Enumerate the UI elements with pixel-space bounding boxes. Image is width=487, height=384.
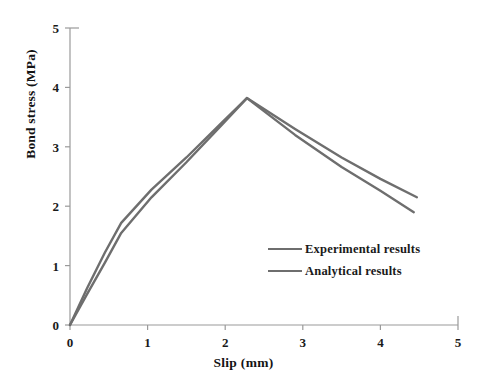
x-tick-label: 4 [368, 336, 392, 349]
x-axis-title: Slip (mm) [0, 355, 487, 371]
legend-line-analytical [268, 270, 302, 272]
plot-canvas [0, 0, 487, 384]
data-series-group [70, 98, 417, 325]
y-axis-ticks [65, 28, 70, 325]
y-tick-label: 3 [39, 141, 59, 154]
y-tick-label: 1 [39, 260, 59, 273]
series-line-experimental-results [70, 98, 417, 325]
legend-label-experimental: Experimental results [305, 242, 420, 257]
y-tick-label: 4 [39, 81, 59, 94]
y-tick-label: 0 [39, 319, 59, 332]
bond-stress-slip-chart: 012345 012345 Bond stress (MPa) Slip (mm… [0, 0, 487, 384]
y-axis-title: Bond stress (MPa) [23, 19, 39, 189]
x-tick-label: 5 [446, 336, 470, 349]
x-tick-label: 3 [291, 336, 315, 349]
legend-line-experimental [268, 248, 302, 250]
x-axis-ticks [70, 325, 458, 330]
legend-item-analytical: Analytical results [268, 260, 458, 282]
x-tick-label: 0 [58, 336, 82, 349]
y-tick-label: 5 [39, 22, 59, 35]
x-tick-label: 1 [136, 336, 160, 349]
x-tick-label: 2 [213, 336, 237, 349]
legend-item-experimental: Experimental results [268, 238, 458, 260]
series-line-analytical-results [70, 98, 414, 325]
legend-label-analytical: Analytical results [305, 264, 402, 279]
y-tick-label: 2 [39, 200, 59, 213]
chart-legend: Experimental results Analytical results [268, 238, 458, 282]
